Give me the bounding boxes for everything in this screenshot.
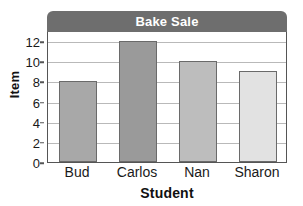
- x-tick-label: Nan: [184, 165, 210, 179]
- y-tick-mark: [40, 61, 44, 63]
- chart-title-bar: Bake Sale: [47, 11, 287, 32]
- bar: [239, 71, 276, 162]
- bar: [179, 61, 216, 162]
- y-tick-mark: [40, 82, 44, 84]
- x-axis-title: Student: [47, 185, 287, 201]
- bar-chart: Bake Sale Item 024681012 BudCarlosNanSha…: [0, 0, 303, 206]
- y-tick-mark: [40, 41, 44, 43]
- plot-area: [47, 32, 287, 163]
- x-tick-label: Bud: [65, 165, 90, 179]
- x-tick-label: Sharon: [234, 165, 279, 179]
- y-tick-mark: [40, 162, 44, 164]
- y-tick-mark: [40, 142, 44, 144]
- y-tick-label: 0: [33, 157, 40, 170]
- bar: [119, 41, 156, 162]
- y-axis-labels: 024681012: [0, 32, 44, 163]
- bars-layer: [48, 32, 286, 162]
- bar: [59, 81, 96, 162]
- y-tick-label: 8: [33, 76, 40, 89]
- y-tick-label: 10: [26, 56, 40, 69]
- y-tick-mark: [40, 122, 44, 124]
- y-tick-label: 2: [33, 136, 40, 149]
- chart-title: Bake Sale: [135, 15, 198, 28]
- y-tick-mark: [40, 102, 44, 104]
- y-tick-label: 6: [33, 96, 40, 109]
- x-axis-labels: BudCarlosNanSharon: [47, 165, 287, 185]
- y-tick-label: 4: [33, 116, 40, 129]
- y-tick-label: 12: [26, 36, 40, 49]
- x-tick-label: Carlos: [117, 165, 157, 179]
